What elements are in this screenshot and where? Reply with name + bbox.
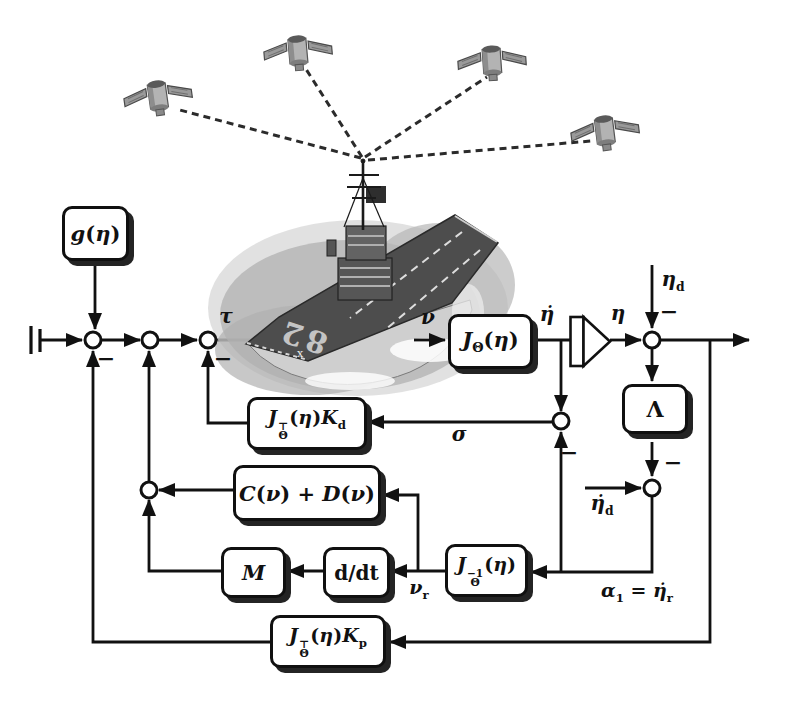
block-lambda-label: Λ <box>646 396 663 422</box>
island-base <box>338 258 392 300</box>
hull-mark: x <box>297 347 304 360</box>
satellite-icon-2 <box>263 32 334 73</box>
label-sigma: σ <box>452 422 467 446</box>
block-c-plus-d: C(ν) + D(ν) <box>233 465 381 521</box>
block-g-eta-label: g(η) <box>71 221 121 246</box>
radar-box <box>366 186 386 203</box>
minus-sign-junction-3: − <box>214 345 232 371</box>
summing-junction-cdm <box>141 482 157 498</box>
summing-junction-2 <box>142 332 158 348</box>
block-g-eta: g(η) <box>62 206 129 261</box>
block-c-plus-d-label: C(ν) + D(ν) <box>239 481 375 506</box>
minus-sign-lambda-out: − <box>664 449 682 475</box>
minus-sign-junction-1: − <box>97 345 115 371</box>
satellite-icon-4 <box>569 111 641 154</box>
summing-junction-alpha <box>644 480 660 496</box>
block-lambda: Λ <box>622 384 688 434</box>
integrator-symbol <box>571 317 611 366</box>
block-j-inverse: J−1Θ(η) <box>445 544 528 597</box>
label-eta-dot-d: η̇d <box>590 491 613 518</box>
block-j-theta-label: JΘ(η) <box>462 327 518 355</box>
gps-link-3 <box>365 77 487 157</box>
block-m-label: M <box>242 560 265 585</box>
summing-junction-eta <box>644 332 660 348</box>
summing-junction-sigma <box>553 413 569 429</box>
label-eta: η <box>611 301 626 325</box>
island-upper <box>346 226 386 260</box>
satellite-icon-1 <box>122 76 194 120</box>
block-ddt: d/dt <box>323 547 390 598</box>
gps-link-lines <box>176 66 591 160</box>
label-tau: τ <box>219 304 232 328</box>
gps-link-4 <box>368 141 591 160</box>
label-nu-r: νr <box>409 576 428 602</box>
label-alpha1: α1 = η̇r <box>601 579 673 605</box>
block-j-inverse-label: J−1Θ(η) <box>457 553 516 587</box>
minus-sign-sigma-input: − <box>560 439 578 465</box>
block-jt-kd-label: J⊤Θ(η)Kd <box>268 406 346 440</box>
block-jt-kp-label: J⊤Θ(η)Kp <box>289 624 367 658</box>
satellite-icon-3 <box>457 43 527 83</box>
gps-link-2 <box>304 66 362 157</box>
block-m: M <box>221 547 286 598</box>
block-jt-kp: J⊤Θ(η)Kp <box>270 615 386 668</box>
figure-canvas: 82 x g(η) JΘ(η <box>0 0 785 706</box>
label-eta-dot: η̇ <box>540 302 555 326</box>
block-jt-kd: J⊤Θ(η)Kd <box>247 397 367 450</box>
zero-input-rail <box>31 326 40 354</box>
block-ddt-label: d/dt <box>334 561 379 585</box>
block-j-theta: JΘ(η) <box>448 314 533 369</box>
minus-sign-eta-d: − <box>660 298 678 324</box>
gps-link-1 <box>176 109 361 158</box>
label-eta-d: ηd <box>661 267 684 294</box>
label-nu: ν <box>421 305 435 329</box>
